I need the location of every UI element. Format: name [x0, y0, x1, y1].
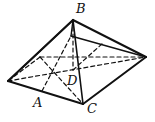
label-C: C	[87, 102, 97, 115]
pyramid-figure	[0, 0, 155, 122]
label-B: B	[76, 2, 86, 15]
edge-front-right	[83, 57, 146, 104]
edge-apex-right	[73, 20, 146, 57]
label-D: D	[67, 74, 77, 87]
edge-inner-right	[71, 36, 146, 57]
edge-apex-front	[73, 20, 83, 104]
pyramid-diagram: B D A C	[0, 0, 155, 122]
edge-apex-back	[22, 20, 73, 68]
label-A: A	[33, 96, 42, 109]
